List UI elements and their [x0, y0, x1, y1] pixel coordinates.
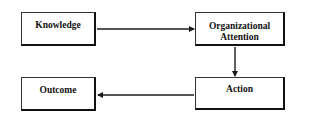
node-outcome: Outcome	[21, 77, 96, 111]
node-organizational-attention: Organizational Attention	[195, 12, 285, 46]
node-action: Action	[195, 77, 285, 110]
node-label-line-1: Organizational	[209, 21, 270, 32]
node-label-line-2: Attention	[220, 32, 259, 43]
node-label: Knowledge	[35, 20, 80, 31]
node-label: Action	[226, 84, 253, 95]
node-knowledge: Knowledge	[21, 12, 96, 46]
node-label: Outcome	[40, 85, 77, 96]
